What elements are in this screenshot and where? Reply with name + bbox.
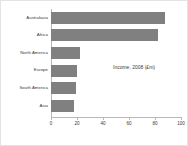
x-axis-tick — [77, 117, 78, 120]
x-axis-tick-label-20: 20 — [74, 122, 79, 127]
category-label-europe: Europe — [34, 68, 48, 72]
category-label-north-america: North America — [20, 51, 48, 55]
category-label-australasia: Australasia — [26, 16, 48, 20]
x-axis-tick — [155, 117, 156, 120]
x-axis-tick-label-80: 80 — [152, 122, 157, 127]
bar-row: Africa — [51, 27, 181, 45]
bar-row: South America — [51, 79, 181, 97]
x-axis-tick-label-100: 100 — [177, 122, 185, 127]
bar-europe — [51, 65, 77, 77]
bar-south-america — [51, 82, 76, 94]
x-axis-tick-label-60: 60 — [126, 122, 131, 127]
bar-asia — [51, 100, 74, 112]
bar-chart-figure: Australasia Africa North America Europe … — [0, 0, 188, 146]
x-axis-tick — [129, 117, 130, 120]
x-axis-line — [51, 117, 182, 118]
x-axis-tick — [103, 117, 104, 120]
x-axis-tick-label-0: 0 — [50, 122, 53, 127]
bar-australasia — [51, 12, 165, 24]
bar-north-america — [51, 47, 80, 59]
bar-row: Australasia — [51, 9, 181, 27]
x-axis-tick-label-40: 40 — [100, 122, 105, 127]
plot-area: Australasia Africa North America Europe … — [51, 9, 181, 115]
bar-row: Asia — [51, 97, 181, 115]
category-label-asia: Asia — [39, 104, 48, 108]
bar-row: North America — [51, 44, 181, 62]
x-axis-tick — [181, 117, 182, 120]
x-axis-tick — [51, 117, 52, 120]
category-label-south-america: South America — [19, 86, 48, 90]
category-label-africa: Africa — [37, 33, 48, 37]
chart-annotation: Income, 2008 (£m) — [113, 65, 155, 70]
bar-africa — [51, 29, 158, 41]
